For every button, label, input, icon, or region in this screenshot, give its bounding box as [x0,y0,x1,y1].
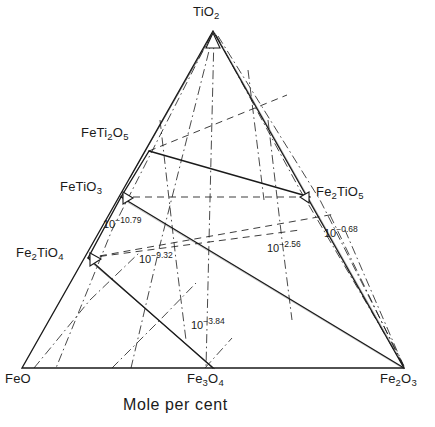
label-fe2tio4-sub2: 4 [58,251,63,262]
label-fe2tio4-a: Fe [16,245,32,260]
isobar-label-2-56: 10−2.56 [267,242,301,254]
label-fetio3-a: FeTiO [60,179,97,194]
label-fe2tio5-sub1: 2 [332,190,337,201]
label-feti2o5-a: FeTi [81,125,107,140]
tie-lines [88,95,335,258]
label-fe2o3-sub1: 2 [396,377,401,388]
label-fe2o3-b: O [401,371,411,386]
ternary-plot-svg [0,0,435,427]
isobar-label-10-79: 10−10.79 [103,218,142,230]
isobar-label-3-84: 10−3.84 [191,319,225,331]
label-fe2tio4-b: TiO [37,245,58,260]
label-feti2o5-b: O [113,125,123,140]
isobar-label-10-79-exponent: −10.79 [115,215,141,225]
label-fetio3: FeTiO3 [60,179,102,194]
label-fe3o4-a: Fe [187,371,203,386]
label-fetio3-sub: 3 [97,185,102,196]
marker-fetio3 [123,192,133,204]
figure-caption: Mole per cent [123,396,228,414]
label-fe2tio5: Fe2TiO5 [316,184,364,199]
ternary-diagram: TiO2 FeTi2O5 FeTiO3 Fe2TiO5 Fe2TiO4 FeO … [0,0,435,427]
isobar-label-0-68-exponent: −0.68 [336,224,358,234]
isobar-label-0-68: 10−0.68 [324,227,358,239]
label-tio2-text: TiO [193,4,214,19]
isobar-label-9-32-mantissa: 10 [139,253,151,265]
label-fe3o4: Fe3O4 [187,371,224,386]
label-fe2tio5-sub2: 5 [358,190,363,201]
label-fe3o4-b: O [208,371,218,386]
isobar-label-3-84-mantissa: 10 [191,319,203,331]
join-feti2o5-fetio3 [121,151,149,197]
phase-point-markers [90,33,309,266]
isobar-label-0-68-mantissa: 10 [324,227,336,239]
label-fe2tio4: Fe2TiO4 [16,245,64,260]
join-fetio3-fe2o3-companion [122,199,404,369]
label-fe3o4-sub2: 4 [218,377,223,388]
label-fe2tio5-b: TiO [337,184,358,199]
label-fe3o4-sub1: 3 [203,377,208,388]
isobar-label-9-32: 10−9.32 [139,253,173,265]
isobar-label-3-84-exponent: −3.84 [203,316,225,326]
label-fe2tio4-sub1: 2 [32,251,37,262]
label-feti2o5-sub1: 2 [107,131,112,142]
isobar-10-79 [56,35,211,368]
label-feti2o5: FeTi2O5 [81,125,129,140]
isobar-right-lower-b [345,230,404,367]
isobar-lower-center [205,338,232,368]
label-feti2o5-sub2: 5 [123,131,128,142]
isobar-label-2-56-exponent: −2.56 [279,239,301,249]
isobar-label-10-79-mantissa: 10 [103,218,115,230]
label-tio2-sub: 2 [214,10,219,21]
label-fe2o3-sub2: 3 [411,377,416,388]
isobar-lower-left-b [112,283,196,368]
label-feo: FeO [5,371,31,386]
label-fe2tio5-a: Fe [316,184,332,199]
isobar-label-9-32-exponent: −9.32 [151,250,173,260]
isobar-label-2-56-mantissa: 10 [267,242,279,254]
label-feo-text: FeO [5,371,31,386]
label-tio2: TiO2 [193,4,220,19]
label-fe2o3-a: Fe [380,371,396,386]
label-fe2o3: Fe2O3 [380,371,417,386]
isobar-lower-left-a [34,252,140,368]
